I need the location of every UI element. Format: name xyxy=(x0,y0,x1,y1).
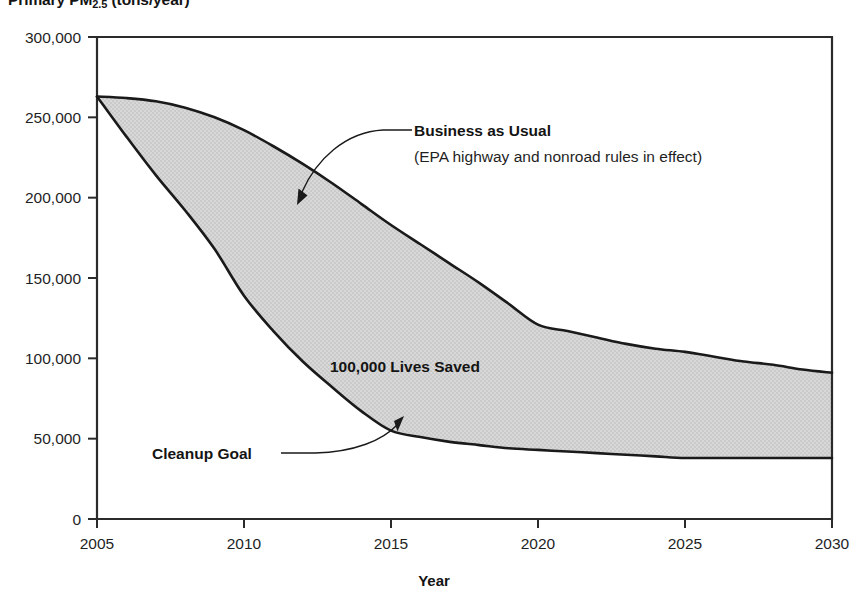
y-axis-tick-label: 100,000 xyxy=(25,350,81,367)
x-axis-tick-label: 2005 xyxy=(80,535,114,552)
y-axis-tick-label: 300,000 xyxy=(25,29,81,46)
x-axis-tick-label: 2010 xyxy=(227,535,262,552)
y-axis-tick-label: 250,000 xyxy=(25,109,81,126)
cleanup-goal-leader-line xyxy=(281,425,397,453)
x-axis-tick-labels: 200520102015202020252030 xyxy=(80,535,850,552)
annotation-lives-saved-label: 100,000 Lives Saved xyxy=(330,358,480,375)
annotation-business-as-usual-sublabel: (EPA highway and nonroad rules in effect… xyxy=(414,148,702,165)
chart-figure: Primary PM2.5 (tons/year) 050,000100,000… xyxy=(0,0,868,609)
x-axis-ticks xyxy=(97,519,832,528)
chart-plot-svg: 050,000100,000150,000200,000250,000300,0… xyxy=(0,0,868,609)
x-axis-tick-label: 2025 xyxy=(668,535,702,552)
annotation-cleanup-goal-label: Cleanup Goal xyxy=(152,445,252,462)
annotation-business-as-usual-label: Business as Usual xyxy=(414,122,551,139)
x-axis-tick-label: 2020 xyxy=(521,535,556,552)
y-axis-tick-label: 200,000 xyxy=(25,189,81,206)
x-axis-caption: Year xyxy=(418,572,450,589)
y-axis-tick-label: 150,000 xyxy=(25,270,81,287)
x-axis-tick-label: 2030 xyxy=(815,535,850,552)
y-axis-tick-label: 0 xyxy=(72,511,81,528)
y-axis-tick-labels: 050,000100,000150,000200,000250,000300,0… xyxy=(25,29,81,528)
y-axis-tick-label: 50,000 xyxy=(34,430,82,447)
y-axis-ticks xyxy=(88,37,97,519)
x-axis-tick-label: 2015 xyxy=(374,535,408,552)
